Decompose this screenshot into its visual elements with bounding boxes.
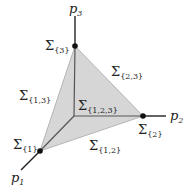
label-sigma-2: Σ{2} [138,122,162,139]
label-sigma-3: Σ{3} [45,38,69,55]
label-sigma-1: Σ{1} [13,137,37,154]
axis-label-p3: p3 [69,1,82,18]
vertex-2-dot [140,113,146,119]
label-sigma-1-2: Σ{1,2} [89,138,121,155]
simplex-diagram: p3 p2 p1 Σ{3} Σ{2,3} Σ{1,3} Σ{1,2,3} Σ{2… [0,0,192,194]
label-sigma-1-3: Σ{1,3} [19,88,51,105]
label-sigma-2-3: Σ{2,3} [111,64,143,81]
axis-label-p1: p1 [11,170,24,187]
vertex-3-dot [72,43,78,49]
axis-label-p2: p2 [170,108,183,125]
vertex-1-dot [37,148,43,154]
